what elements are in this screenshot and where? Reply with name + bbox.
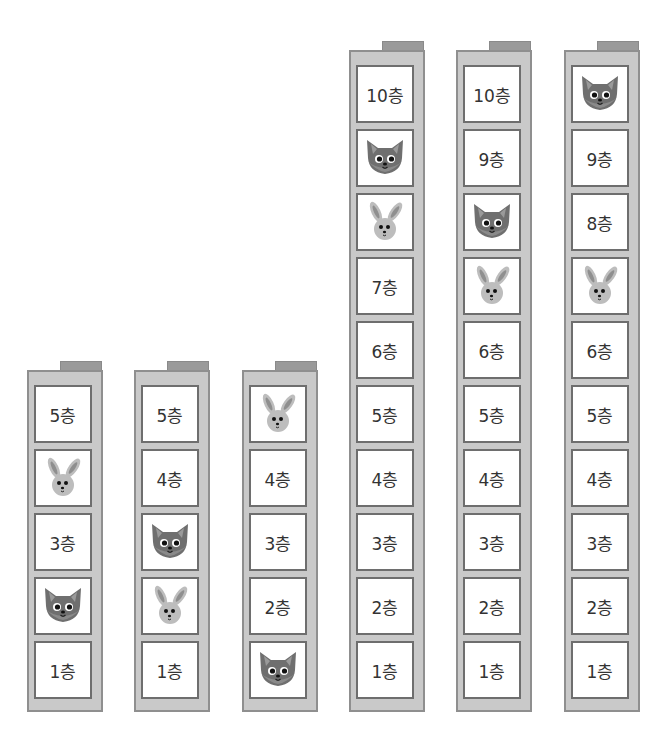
floor-label: 4층 <box>356 449 414 507</box>
building-3: 4층3층2층 <box>242 361 318 712</box>
floor-label: 4층 <box>463 449 521 507</box>
floor-label: 3층 <box>34 513 92 571</box>
floor-label: 4층 <box>249 449 307 507</box>
floor-label: 6층 <box>571 321 629 379</box>
building-5: 10층9층6층5층4층3층2층1층 <box>456 41 532 712</box>
floor-label: 1층 <box>141 641 199 699</box>
floor-label: 5층 <box>141 385 199 443</box>
floor-label: 2층 <box>463 577 521 635</box>
rabbit-icon <box>356 193 414 251</box>
floor-label: 5층 <box>356 385 414 443</box>
floor-label: 5층 <box>463 385 521 443</box>
fox-icon <box>34 577 92 635</box>
fox-icon <box>463 193 521 251</box>
rabbit-icon <box>571 257 629 315</box>
floor-label: 9층 <box>463 129 521 187</box>
building-4: 10층7층6층5층4층3층2층1층 <box>349 41 425 712</box>
floor-label: 2층 <box>249 577 307 635</box>
floor-label: 4층 <box>141 449 199 507</box>
building-2: 5층4층1층 <box>134 361 210 712</box>
floor-label: 1층 <box>571 641 629 699</box>
floor-label: 7층 <box>356 257 414 315</box>
floor-label: 6층 <box>356 321 414 379</box>
floor-label: 5층 <box>571 385 629 443</box>
building-1: 5층3층1층 <box>27 361 103 712</box>
building-6: 9층8층6층5층4층3층2층1층 <box>564 41 640 712</box>
rabbit-icon <box>34 449 92 507</box>
floor-label: 10층 <box>356 65 414 123</box>
rabbit-icon <box>463 257 521 315</box>
floor-label: 3층 <box>463 513 521 571</box>
fox-icon <box>249 641 307 699</box>
floor-label: 3층 <box>571 513 629 571</box>
rabbit-icon <box>249 385 307 443</box>
floor-label: 6층 <box>463 321 521 379</box>
fox-icon <box>571 65 629 123</box>
floor-label: 9층 <box>571 129 629 187</box>
floor-label: 2층 <box>571 577 629 635</box>
rabbit-icon <box>141 577 199 635</box>
fox-icon <box>141 513 199 571</box>
fox-icon <box>356 129 414 187</box>
floor-label: 2층 <box>356 577 414 635</box>
floor-label: 1층 <box>34 641 92 699</box>
floor-label: 1층 <box>356 641 414 699</box>
floor-label: 4층 <box>571 449 629 507</box>
floor-label: 8층 <box>571 193 629 251</box>
floor-label: 10층 <box>463 65 521 123</box>
floor-label: 3층 <box>249 513 307 571</box>
floor-label: 3층 <box>356 513 414 571</box>
floor-label: 1층 <box>463 641 521 699</box>
floor-label: 5층 <box>34 385 92 443</box>
